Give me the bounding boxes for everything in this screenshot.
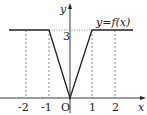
function-graph: y x O 3 -2 -1 1 2 y=f(x) <box>0 0 147 115</box>
function-curve <box>9 30 133 98</box>
origin-label: O <box>61 101 70 114</box>
x-tick-1: 1 <box>89 101 96 114</box>
x-tick-neg1: -1 <box>41 101 52 114</box>
y-tick-3: 3 <box>63 30 70 43</box>
x-tick-2: 2 <box>112 101 119 114</box>
y-axis-arrow-icon <box>68 3 72 9</box>
function-label: y=f(x) <box>95 16 130 29</box>
x-tick-neg2: -2 <box>18 101 29 114</box>
x-axis-arrow-icon <box>140 96 146 100</box>
y-axis-label: y <box>59 3 67 16</box>
x-axis-label: x <box>138 101 145 114</box>
